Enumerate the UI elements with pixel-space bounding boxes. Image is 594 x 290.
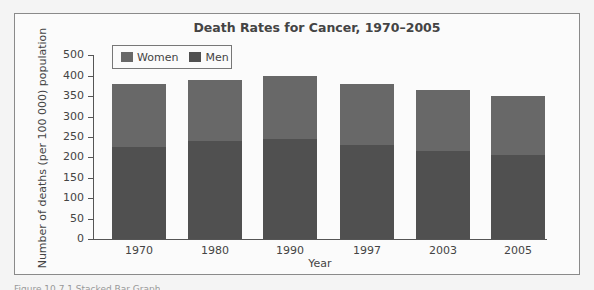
legend-label-men: Men — [205, 51, 228, 64]
y-tick-label: 0 — [56, 232, 84, 245]
bar-segment-women — [263, 76, 317, 139]
bar-segment-women — [416, 90, 470, 151]
x-tick-label: 2005 — [488, 244, 548, 257]
bar-1997 — [340, 84, 394, 239]
legend: Women Men — [112, 45, 232, 69]
x-tick-label: 1990 — [260, 244, 320, 257]
y-tick-mark — [88, 76, 93, 77]
x-tick-label: 1970 — [109, 244, 169, 257]
chart-title: Death Rates for Cancer, 1970–2005 — [0, 20, 594, 35]
x-axis — [93, 239, 547, 240]
bar-segment-women — [112, 84, 166, 147]
y-tick-mark — [88, 96, 93, 97]
bar-segment-men — [340, 145, 394, 239]
y-tick-label: 300 — [56, 110, 84, 123]
x-tick-label: 1997 — [337, 244, 397, 257]
y-tick-mark — [88, 178, 93, 179]
x-tick-label: 2003 — [413, 244, 473, 257]
y-tick-mark — [88, 137, 93, 138]
y-tick-mark — [88, 55, 93, 56]
legend-label-women: Women — [137, 51, 178, 64]
y-tick-label: 150 — [56, 171, 84, 184]
y-tick-mark — [88, 239, 93, 240]
y-tick-label: 500 — [56, 48, 84, 61]
bar-2003 — [416, 90, 470, 239]
bar-segment-men — [112, 147, 166, 239]
x-axis-label: Year — [300, 257, 340, 270]
bar-segment-men — [263, 139, 317, 239]
bar-segment-women — [188, 80, 242, 141]
y-tick-mark — [88, 157, 93, 158]
y-tick-mark — [88, 117, 93, 118]
bar-segment-women — [340, 84, 394, 145]
y-tick-mark — [88, 198, 93, 199]
figure-caption: Figure 10.7.1 Stacked Bar Graph — [14, 284, 160, 290]
legend-swatch-women — [121, 52, 133, 62]
y-axis-label: Number of deaths (per 100 000) populatio… — [36, 28, 49, 269]
bar-segment-women — [491, 96, 545, 155]
bar-segment-men — [491, 155, 545, 239]
y-axis — [93, 55, 94, 239]
bar-1990 — [263, 76, 317, 239]
bar-2005 — [491, 96, 545, 239]
bar-segment-men — [416, 151, 470, 239]
legend-item-men: Men — [189, 51, 228, 64]
y-tick-label: 200 — [56, 150, 84, 163]
legend-item-women: Women — [121, 51, 178, 64]
y-tick-label: 350 — [56, 89, 84, 102]
y-tick-label: 100 — [56, 191, 84, 204]
y-tick-label: 50 — [56, 212, 84, 225]
y-tick-mark — [88, 219, 93, 220]
legend-swatch-men — [189, 52, 201, 62]
bar-segment-men — [188, 141, 242, 239]
y-tick-label: 400 — [56, 69, 84, 82]
bar-1980 — [188, 80, 242, 239]
x-tick-label: 1980 — [185, 244, 245, 257]
y-tick-label: 250 — [56, 130, 84, 143]
bar-1970 — [112, 84, 166, 239]
